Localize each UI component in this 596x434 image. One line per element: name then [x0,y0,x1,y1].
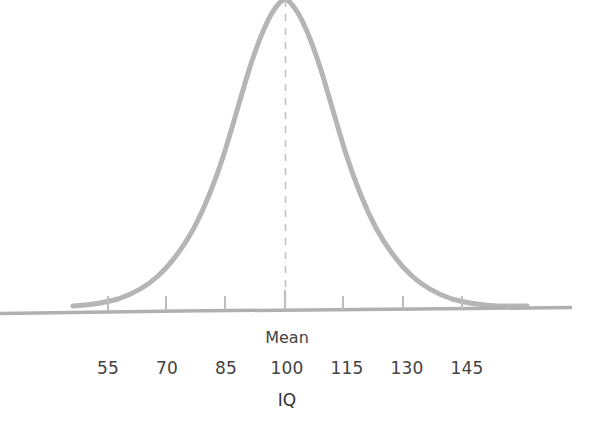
mean-annotation-label: Mean [265,330,309,346]
x-tick-label-55: 55 [97,360,119,377]
x-tick-label-100: 100 [270,360,303,377]
iq-normal-distribution-chart: Mean 55 70 85 100 115 130 145 IQ [0,0,596,434]
x-axis-title: IQ [278,392,296,409]
x-tick-label-130: 130 [390,360,423,377]
normal-distribution-curve [73,0,527,306]
x-tick-label-145: 145 [450,360,483,377]
x-tick-label-85: 85 [215,360,237,377]
x-tick-label-70: 70 [156,360,178,377]
x-tick-label-115: 115 [330,360,363,377]
